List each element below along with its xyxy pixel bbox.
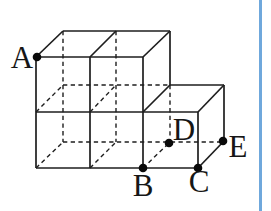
worksheet-page: ABCDE [0,0,271,211]
vertex-label-B: B [133,168,154,203]
vertex-dot-E [219,137,228,146]
visible-edge [143,31,170,57]
hidden-edge [36,85,63,112]
page-margin-rule-line [259,0,262,211]
visible-edge [90,31,116,57]
hidden-edge [90,142,116,168]
vertex-label-A: A [11,40,34,75]
vertex-label-C: C [189,164,210,199]
vertex-label-E: E [229,129,248,164]
vertex-label-D: D [173,112,195,147]
hidden-edge [143,143,169,168]
visible-edge [198,85,224,112]
hidden-edge [36,142,63,168]
vertex-dot-A [33,53,42,62]
cube-stack-figure: ABCDE [0,0,271,211]
visible-edge [36,31,63,57]
hidden-edge [90,85,116,112]
visible-edge [143,85,170,112]
